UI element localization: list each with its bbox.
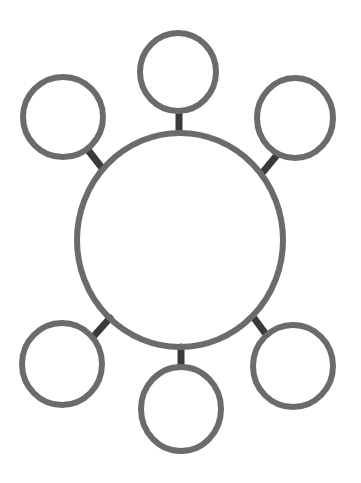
satellite-circle-top-right bbox=[257, 78, 333, 158]
satellite-circle-top bbox=[140, 33, 216, 111]
connector-group bbox=[88, 112, 277, 369]
diagram-canvas bbox=[0, 0, 361, 483]
connector-top-right bbox=[263, 155, 277, 172]
satellite-circle-top-left bbox=[23, 77, 103, 157]
connector-top-left bbox=[88, 150, 102, 168]
satellite-circle-bottom bbox=[141, 367, 221, 451]
satellite-circle-bottom-right bbox=[253, 325, 333, 407]
satellite-group bbox=[22, 33, 333, 451]
center-circle bbox=[77, 133, 283, 347]
bubble-map-diagram bbox=[0, 0, 361, 483]
connector-bottom-left bbox=[93, 318, 110, 337]
satellite-circle-bottom-left bbox=[22, 323, 102, 405]
